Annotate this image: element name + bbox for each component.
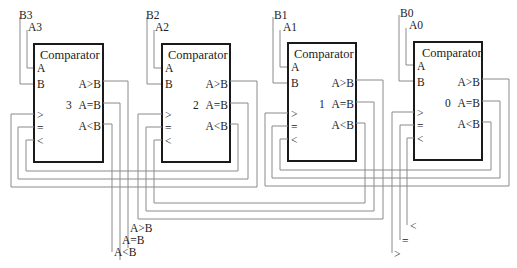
port-gt-out: A>B [458, 76, 481, 88]
port-lt-out: A<B [79, 120, 102, 132]
port-lt-in: < [291, 134, 298, 146]
wire-a3 [27, 30, 34, 68]
port-gt-in: > [165, 109, 172, 121]
label-b3: B3 [19, 9, 33, 21]
wire-a0 [406, 28, 414, 65]
port-lt-out: A<B [332, 119, 355, 131]
block-index: 3 [66, 99, 72, 111]
label-b1: B1 [274, 9, 288, 21]
port-eq-out: A=B [332, 98, 355, 110]
wire-a2 [154, 30, 162, 68]
label-a2: A2 [155, 21, 169, 33]
block-title: Comparator [422, 46, 483, 60]
port-a: A [291, 61, 300, 73]
port-eq-in: = [417, 120, 424, 132]
port-a: A [165, 62, 174, 74]
block-index: 1 [319, 98, 325, 110]
port-eq-out: A=B [458, 97, 481, 109]
port-lt-out: A<B [206, 120, 229, 132]
block-index: 0 [445, 97, 451, 109]
port-b: B [417, 76, 425, 88]
comparator-block-2: B2 A2 Comparator A B > = < A>B 2 A=B A<B [146, 9, 230, 162]
cascade-input-lt: < [410, 220, 417, 232]
cascade-input-gt: > [394, 248, 401, 260]
port-a: A [417, 60, 426, 72]
comparator-block-3: B3 A3 Comparator A B > = < A>B 3 A=B A<B [19, 9, 103, 162]
port-eq-in: = [165, 122, 172, 134]
port-lt-out: A<B [458, 118, 481, 130]
port-gt-in: > [291, 108, 298, 120]
port-gt-out: A>B [206, 78, 229, 90]
port-gt-out: A>B [79, 78, 102, 90]
port-lt-in: < [417, 133, 424, 145]
final-output-gt: A>B [130, 222, 153, 234]
wire-b3-gt-out [103, 81, 128, 248]
comparator-block-0: B0 A0 Comparator A B > = < A>B 0 A=B A<B [399, 7, 483, 160]
comparator-block-1: B1 A1 Comparator A B > = < A>B 1 A=B A<B [273, 9, 356, 161]
port-eq-out: A=B [79, 99, 102, 111]
label-a3: A3 [28, 21, 42, 33]
port-b: B [37, 78, 45, 90]
label-a0: A0 [409, 19, 423, 31]
port-eq-out: A=B [206, 99, 229, 111]
port-lt-in: < [165, 135, 172, 147]
label-a1: A1 [283, 21, 297, 33]
cascade-input-eq: = [402, 235, 409, 247]
port-gt-out: A>B [332, 77, 355, 89]
port-b: B [291, 77, 299, 89]
port-b: B [165, 78, 173, 90]
comparator-cascade-diagram: B3 A3 Comparator A B > = < A>B 3 A=B A<B… [0, 0, 517, 268]
label-b0: B0 [400, 7, 414, 19]
block-title: Comparator [40, 48, 101, 62]
wire-a1 [280, 30, 288, 67]
wire-ext-lt [407, 138, 414, 225]
block-title: Comparator [168, 48, 229, 62]
final-output-eq: A=B [122, 234, 145, 246]
cascade-inputs: < = > [394, 220, 417, 260]
port-eq-in: = [37, 122, 44, 134]
label-b2: B2 [146, 9, 160, 21]
port-gt-in: > [37, 109, 44, 121]
block-index: 2 [193, 99, 199, 111]
port-gt-in: > [417, 107, 424, 119]
port-a: A [37, 62, 46, 74]
port-lt-in: < [37, 135, 44, 147]
port-eq-in: = [291, 121, 298, 133]
wire-b3-lt-out [103, 124, 112, 252]
block-title: Comparator [294, 47, 355, 61]
final-output-lt: A<B [114, 246, 137, 258]
